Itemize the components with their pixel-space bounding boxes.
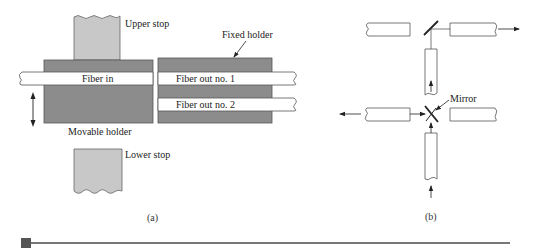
mirror-pointer-arrow-icon bbox=[436, 100, 449, 110]
footer-line bbox=[31, 242, 510, 244]
fiber-top-right bbox=[450, 23, 497, 36]
fiber-out-2-label: Fiber out no. 2 bbox=[176, 99, 235, 110]
fiber-top-left bbox=[366, 23, 410, 36]
movement-double-arrow-icon bbox=[31, 92, 36, 127]
optical-switch-diagram: Upper stop Fixed holder Fiber in Fiber o… bbox=[0, 0, 537, 252]
footer-square bbox=[21, 238, 31, 248]
fixed-holder bbox=[158, 58, 272, 123]
upper-stop-label: Upper stop bbox=[125, 18, 169, 29]
lower-stop-block bbox=[74, 149, 122, 193]
lower-stop-label: Lower stop bbox=[125, 149, 170, 160]
panel-a: Upper stop Fixed holder Fiber in Fiber o… bbox=[19, 16, 296, 225]
fiber-right-middle bbox=[450, 108, 497, 121]
panel-b: Mirror (b) bbox=[340, 21, 519, 223]
movable-holder-label: Movable holder bbox=[68, 126, 132, 137]
fiber-out-1-label: Fiber out no. 1 bbox=[176, 73, 235, 84]
fiber-in-label: Fiber in bbox=[82, 73, 113, 84]
footer-rule bbox=[21, 238, 510, 248]
fiber-bottom-vertical bbox=[425, 133, 437, 180]
fixed-holder-label: Fixed holder bbox=[222, 29, 273, 40]
panel-a-caption: (a) bbox=[147, 212, 158, 224]
upper-stop-block bbox=[74, 16, 120, 61]
fixed-holder-pointer-arrow-icon bbox=[234, 41, 246, 57]
bottom-mirror bbox=[425, 106, 438, 122]
mirror-label: Mirror bbox=[450, 93, 477, 104]
movable-holder bbox=[44, 60, 153, 123]
fiber-left-middle bbox=[365, 108, 410, 121]
panel-b-caption: (b) bbox=[425, 211, 437, 223]
